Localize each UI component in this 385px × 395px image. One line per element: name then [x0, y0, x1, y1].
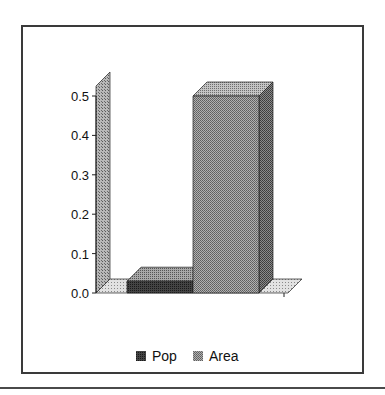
legend-swatch-area — [193, 351, 203, 361]
y-tick-label: 0.5 — [71, 89, 89, 104]
chart-canvas: 0.00.10.20.30.40.5 Pop Area — [0, 0, 385, 395]
y-tick-label: 0.2 — [71, 207, 89, 222]
back-wall — [96, 72, 110, 293]
legend-swatch-pop — [136, 351, 146, 361]
legend-label-area: Area — [209, 348, 239, 364]
y-tick-label: 0.1 — [71, 247, 89, 262]
legend: Pop Area — [136, 348, 239, 364]
legend-label-pop: Pop — [152, 348, 177, 364]
y-tick-label: 0.4 — [71, 128, 89, 143]
plot-area — [96, 72, 302, 293]
bar-area-side — [259, 82, 273, 293]
bar-pop-front — [127, 281, 193, 293]
bar-area-front — [193, 96, 259, 293]
y-tick-label: 0.3 — [71, 168, 89, 183]
y-tick-label: 0.0 — [71, 286, 89, 301]
